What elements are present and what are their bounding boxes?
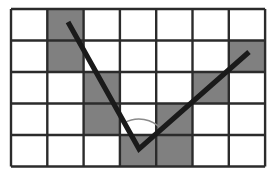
shaded-cell	[156, 135, 192, 167]
angle-grid-figure	[0, 0, 278, 176]
grid-canvas	[0, 0, 278, 176]
shaded-cell	[84, 72, 120, 104]
